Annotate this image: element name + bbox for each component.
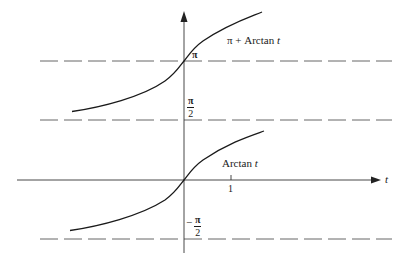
half-pi-label: π 2 — [187, 96, 194, 119]
pi-plus-arctan-label-text: π + Arctan — [227, 34, 274, 46]
t-axis-label: t — [385, 174, 388, 185]
pi-plus-arctan-label: π + Arctan t — [227, 35, 280, 46]
pi-plus-arctan-label-var: t — [277, 34, 280, 46]
neg-half-pi-denominator: 2 — [194, 228, 201, 238]
arctan-curve — [70, 131, 264, 231]
arctan-label-text: Arctan — [222, 157, 252, 169]
pi-plus-arctan-curve — [72, 12, 262, 112]
half-pi-denominator: 2 — [187, 109, 194, 119]
arctan-label: Arctan t — [222, 158, 258, 169]
pi-asymptote-label: π — [192, 50, 197, 60]
neg-half-pi-label: π 2 — [194, 215, 201, 238]
vertical-axis-arrowhead — [181, 11, 188, 22]
t-axis-arrowhead — [371, 177, 381, 184]
neg-half-pi-numerator: π — [194, 215, 201, 225]
half-pi-numerator: π — [187, 96, 194, 106]
arctan-label-var: t — [255, 157, 258, 169]
tick-label-1: 1 — [228, 184, 233, 194]
neg-half-pi-sign: − — [186, 216, 192, 228]
